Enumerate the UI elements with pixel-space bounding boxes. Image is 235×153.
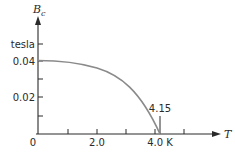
x-axis-title: T: [224, 128, 233, 141]
x-tick-label-4.0: 4.0 K: [147, 137, 173, 148]
x-tick-label-2.0: 2.0: [89, 137, 105, 148]
y-tick-label-0.04: 0.04: [13, 56, 35, 67]
y-axis-arrow-icon: [35, 16, 41, 25]
y-axis-title: Bc: [32, 3, 46, 18]
tc-label: 4.15: [149, 103, 171, 114]
axes: [36, 22, 214, 134]
y-ticks: [38, 44, 43, 116]
origin-label: 0: [30, 137, 36, 148]
critical-field-chart: Bc tesla 0.04 0.02 0 2.0 4.0 K 4.15 T: [0, 0, 235, 153]
critical-field-curve-drawn: [38, 61, 160, 135]
x-ticks: [68, 129, 184, 134]
y-unit-label: tesla: [11, 39, 35, 50]
y-tick-label-0.02: 0.02: [13, 92, 35, 103]
critical-field-curve: [38, 61, 184, 94]
x-axis-arrow-icon: [212, 131, 221, 137]
